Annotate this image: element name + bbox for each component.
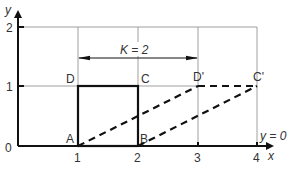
x-tick-3: 3 [194,151,201,165]
x-tick-1: 1 [74,151,81,165]
x-tick-2: 2 [134,151,141,165]
shear-diagram: K = 2 y x 0 1 2 3 4 1 2 A B C D D' C' y … [0,0,295,169]
vertex-d-prime-label: D' [193,70,204,84]
y-tick-2: 2 [6,21,13,35]
vertex-b-label: B [140,132,148,146]
vertex-c-label: C [141,72,150,86]
shear-factor-label: K = 2 [120,43,149,57]
vertex-d-label: D [66,72,75,86]
invariant-line-label: y = 0 [259,129,287,143]
vertex-a-label: A [66,132,74,146]
original-square [78,86,138,146]
x-tick-4: 4 [253,151,260,165]
x-axis-label: x [267,149,275,163]
origin-label: 0 [5,141,12,155]
sheared-parallelogram [78,86,257,146]
y-tick-1: 1 [6,80,13,94]
y-axis-label: y [4,3,12,17]
vertex-c-prime-label: C' [253,70,264,84]
